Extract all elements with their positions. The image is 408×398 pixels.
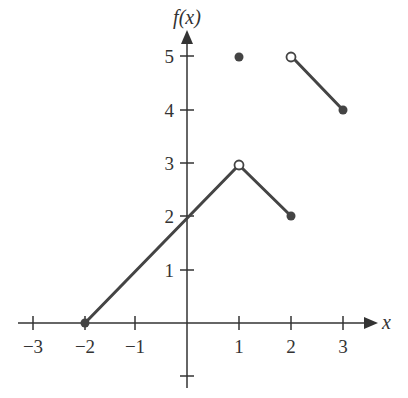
x-tick-label: −1 [125, 336, 145, 357]
x-tick-label: −2 [75, 336, 95, 357]
x-tick-label: −3 [23, 336, 43, 357]
y-axis-arrow-icon [181, 30, 193, 44]
y-tick-label: 4 [165, 100, 175, 121]
segment-1 [85, 168, 236, 323]
y-tick-label: 2 [165, 206, 175, 227]
x-axis-title: x [381, 311, 391, 333]
x-tick-label: 2 [286, 336, 296, 357]
closed-point [81, 319, 90, 328]
x-axis-arrow-icon [364, 317, 378, 329]
y-axis-title: f(x) [173, 6, 201, 29]
closed-point [235, 53, 244, 62]
segment-3 [294, 59, 343, 110]
y-tick-label: 5 [165, 46, 175, 67]
function-graph: −3 −2 −1 1 2 3 5 4 3 2 1 x f(x) [0, 0, 408, 398]
y-tick-label: 1 [165, 260, 175, 281]
function-curve [85, 59, 343, 323]
open-point [287, 53, 296, 62]
y-tick-label: 3 [165, 153, 175, 174]
segment-2 [242, 168, 291, 216]
x-tick-label: 3 [338, 336, 348, 357]
closed-point [339, 106, 348, 115]
closed-point [287, 212, 296, 221]
x-tick-label: 1 [234, 336, 244, 357]
open-point [235, 161, 244, 170]
